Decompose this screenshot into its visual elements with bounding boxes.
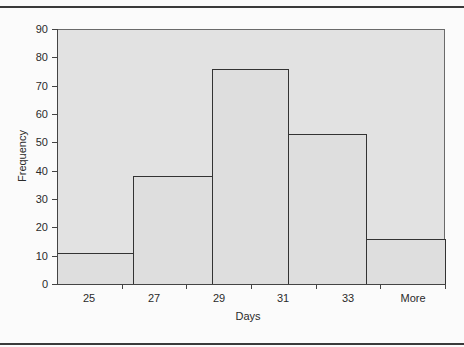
y-tick-label: 90 — [18, 23, 48, 35]
y-tick-mark — [52, 256, 57, 257]
x-tick-mark — [380, 284, 381, 289]
y-tick-mark — [52, 29, 57, 30]
x-tick-mark — [122, 284, 123, 289]
x-tick-label: 27 — [124, 292, 184, 304]
y-tick-mark — [52, 199, 57, 200]
bottom-rule — [0, 343, 464, 345]
y-tick-mark — [52, 114, 57, 115]
y-tick-label: 10 — [18, 250, 48, 262]
y-tick-mark — [52, 284, 57, 285]
y-tick-mark — [52, 57, 57, 58]
y-tick-mark — [52, 142, 57, 143]
histogram-bar-33 — [366, 239, 446, 284]
histogram-bar-25 — [57, 253, 134, 284]
top-rule — [0, 6, 464, 8]
x-tick-label: More — [383, 292, 443, 304]
x-tick-label: 33 — [318, 292, 378, 304]
x-tick-label: 31 — [253, 292, 313, 304]
x-tick-mark — [251, 284, 252, 289]
y-tick-label: 0 — [18, 278, 48, 290]
histogram-bar-27 — [133, 176, 213, 284]
x-tick-label: 29 — [189, 292, 249, 304]
y-tick-mark — [52, 171, 57, 172]
y-tick-label: 70 — [18, 80, 48, 92]
histogram-bar-29 — [212, 69, 289, 284]
y-tick-mark — [52, 86, 57, 87]
histogram-bar-31 — [288, 134, 367, 284]
y-tick-mark — [52, 227, 57, 228]
x-tick-mark — [316, 284, 317, 289]
y-axis-title: Frequency — [16, 116, 28, 196]
x-tick-mark — [186, 284, 187, 289]
y-tick-label: 80 — [18, 51, 48, 63]
y-axis — [57, 29, 58, 285]
x-tick-mark — [445, 284, 446, 289]
x-axis-title: Days — [218, 310, 278, 322]
x-tick-label: 25 — [59, 292, 119, 304]
y-tick-label: 20 — [18, 221, 48, 233]
